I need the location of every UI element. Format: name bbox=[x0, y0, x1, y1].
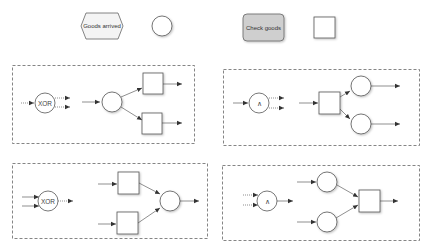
epc-diagram-canvas: Goods arrived Check goods XOR ∧ bbox=[0, 0, 431, 250]
gate-label: XOR bbox=[38, 100, 52, 107]
event-circle bbox=[351, 114, 371, 134]
function-square bbox=[142, 113, 162, 134]
legend-function-shape: Check goods bbox=[243, 14, 284, 41]
event-circle bbox=[351, 76, 371, 96]
legend-function-square bbox=[314, 17, 335, 38]
function-square bbox=[143, 73, 163, 94]
gate-label: XOR bbox=[41, 198, 55, 205]
legend-event-circle bbox=[152, 16, 172, 36]
function-square bbox=[118, 172, 139, 194]
panel-xor-join: XOR bbox=[13, 164, 208, 239]
gate-label: ∧ bbox=[265, 198, 270, 205]
panel-and-join: ∧ bbox=[223, 166, 420, 241]
event-circle bbox=[317, 172, 337, 192]
function-square bbox=[359, 190, 380, 212]
function-square bbox=[319, 92, 340, 114]
event-circle bbox=[160, 191, 180, 211]
event-circle bbox=[317, 212, 337, 232]
legend-event-label: Goods arrived bbox=[83, 23, 121, 29]
event-circle bbox=[102, 92, 122, 112]
function-square bbox=[117, 212, 138, 234]
gate-label: ∧ bbox=[257, 100, 262, 107]
panel-xor-split: XOR bbox=[13, 66, 195, 144]
legend-event-shape: Goods arrived bbox=[81, 13, 123, 39]
legend-function-label: Check goods bbox=[246, 25, 281, 31]
panel-and-split: ∧ bbox=[224, 70, 420, 146]
